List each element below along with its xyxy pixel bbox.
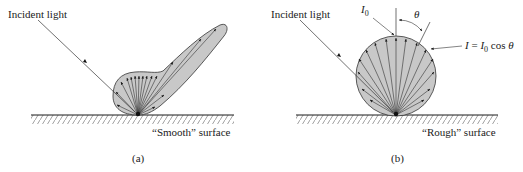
origin-point-b bbox=[394, 112, 398, 116]
incident-ray-a bbox=[38, 20, 135, 112]
formula-pointer bbox=[431, 46, 462, 49]
theta-label: θ bbox=[414, 9, 419, 20]
i0-subscript: 0 bbox=[365, 9, 369, 18]
formula-theta: θ bbox=[508, 39, 513, 51]
origin-point-a bbox=[136, 112, 140, 116]
incident-arrow-a bbox=[83, 59, 87, 63]
theta-line bbox=[418, 22, 430, 46]
incident-light-label-a: Incident light bbox=[8, 9, 67, 20]
panel-a bbox=[31, 20, 234, 124]
surface-hatch-a bbox=[31, 115, 234, 124]
formula-cos: cos bbox=[488, 39, 508, 51]
incident-arrow-b bbox=[337, 53, 341, 57]
formula-eq: = bbox=[469, 39, 481, 51]
caption-b: (b) bbox=[391, 153, 404, 164]
incident-light-label-b: Incident light bbox=[271, 9, 330, 20]
surface-label-b: “Rough” surface bbox=[422, 127, 496, 138]
formula-label: I = I0 cos θ bbox=[465, 40, 514, 54]
diagram-canvas bbox=[0, 0, 523, 172]
i0-label: I0 bbox=[361, 4, 369, 18]
i0-pointer bbox=[373, 18, 394, 35]
specular-lobe bbox=[113, 24, 227, 115]
surface-label-a: “Smooth” surface bbox=[152, 127, 231, 138]
panel-b bbox=[296, 8, 498, 124]
theta-arc bbox=[399, 20, 422, 31]
caption-a: (a) bbox=[132, 153, 144, 164]
